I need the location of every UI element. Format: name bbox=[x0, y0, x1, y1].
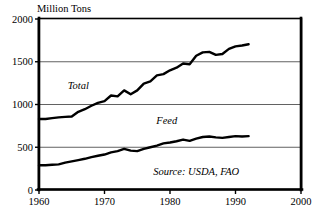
y-axis-unit-label: Million Tons bbox=[37, 3, 91, 14]
x-tick-label: 2000 bbox=[291, 196, 312, 207]
y-tick-label: 1000 bbox=[12, 99, 33, 110]
y-tick-label: 500 bbox=[17, 142, 33, 153]
y-tick-label: 1500 bbox=[12, 56, 33, 67]
source-note: Source: USDA, FAO bbox=[153, 166, 239, 177]
y-tick-label: 0 bbox=[28, 185, 33, 196]
x-tick-label: 1960 bbox=[29, 196, 50, 207]
y-tick-label: 2000 bbox=[12, 14, 33, 25]
line-chart: Million Tons 0500100015002000 1960197019… bbox=[0, 0, 317, 219]
chart-background bbox=[0, 0, 317, 219]
x-tick-label: 1990 bbox=[225, 196, 246, 207]
chart-container: Million Tons 0500100015002000 1960197019… bbox=[0, 0, 317, 219]
series-label-feed: Feed bbox=[155, 115, 178, 126]
x-tick-label: 1970 bbox=[94, 196, 115, 207]
x-tick-label: 1980 bbox=[160, 196, 181, 207]
series-label-total: Total bbox=[68, 80, 89, 91]
